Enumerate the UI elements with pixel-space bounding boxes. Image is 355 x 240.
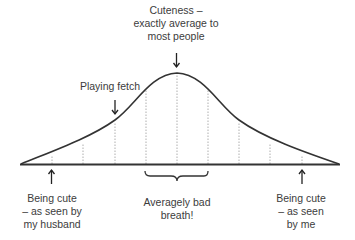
label-cute-husband: Being cute – as seen by my husband bbox=[22, 192, 82, 231]
label-line: Averagely bad bbox=[144, 196, 211, 209]
label-playing-fetch: Playing fetch bbox=[80, 80, 140, 93]
bell-curve bbox=[21, 73, 339, 164]
label-line: breath! bbox=[144, 209, 211, 222]
label-line: exactly average to bbox=[133, 17, 218, 30]
label-line: my husband bbox=[22, 218, 82, 231]
label-line: Cuteness – bbox=[133, 4, 218, 17]
label-bad-breath: Averagely bad breath! bbox=[144, 196, 211, 222]
label-cuteness-average: Cuteness – exactly average to most peopl… bbox=[133, 4, 218, 43]
label-line: Playing fetch bbox=[80, 80, 140, 93]
label-line: Being cute bbox=[276, 192, 326, 205]
arrow-down-icon-fetch bbox=[112, 100, 118, 114]
label-line: by me bbox=[276, 218, 326, 231]
arrow-up-icon-husband bbox=[49, 170, 55, 184]
label-line: – as seen by bbox=[22, 205, 82, 218]
label-cute-me: Being cute – as seen by me bbox=[276, 192, 326, 231]
curly-brace-icon bbox=[145, 171, 208, 181]
label-line: – as seen bbox=[276, 205, 326, 218]
arrow-up-icon-me bbox=[299, 170, 305, 184]
label-line: most people bbox=[133, 30, 218, 43]
label-line: Being cute bbox=[22, 192, 82, 205]
arrow-down-icon-peak bbox=[174, 53, 180, 67]
